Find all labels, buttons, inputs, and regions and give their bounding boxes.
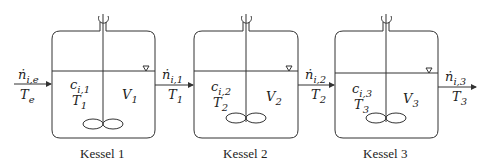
- stream-1-temp-label: T1: [168, 88, 183, 105]
- tank-3-temp: T3: [354, 98, 369, 115]
- outlet-temp-label: T3: [452, 90, 467, 107]
- tank-2-temp: T2: [213, 96, 228, 113]
- stream-2-temp-label: T2: [311, 88, 326, 105]
- tank-3-caption: Kessel 3: [363, 146, 407, 162]
- tank-2-caption: Kessel 2: [223, 146, 267, 162]
- tank-1: [52, 14, 155, 138]
- tank-1-temp: T1: [72, 94, 87, 111]
- inlet-flow-label: ṅi,e: [18, 68, 39, 85]
- outlet-flow-label: ṅi,3: [445, 70, 466, 87]
- tank-1-caption: Kessel 1: [80, 146, 124, 162]
- tank-2: [194, 14, 298, 138]
- level-marker-icon: [286, 66, 292, 71]
- level-marker-icon: [426, 68, 432, 73]
- tank-1-volume: V1: [122, 88, 138, 105]
- tank-3: [335, 14, 438, 138]
- tank-2-volume: V2: [266, 90, 282, 107]
- tank-3-volume: V3: [403, 92, 419, 109]
- stream-1-flow-label: ṅi,1: [162, 68, 183, 85]
- stream-2-flow-label: ṅi,2: [305, 68, 326, 85]
- level-marker-icon: [143, 66, 149, 71]
- inlet-temp-label: Te: [20, 88, 35, 105]
